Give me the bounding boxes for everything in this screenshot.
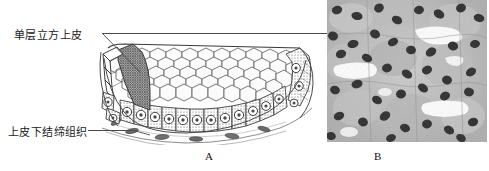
panel-b-letter: B: [374, 150, 381, 162]
label-subepithelial-connective-tissue: 上皮下结缔组织: [8, 123, 88, 139]
panel-b-photomicrograph: [327, 0, 487, 142]
label-simple-cuboidal-epithelium: 单层立方上皮: [14, 26, 82, 42]
figure-container: 单层立方上皮 上皮下结缔组织 A B: [0, 0, 489, 171]
panel-a-letter: A: [205, 150, 213, 162]
epithelium-leader-line: [102, 33, 327, 34]
connective-leader-line: [88, 130, 132, 131]
